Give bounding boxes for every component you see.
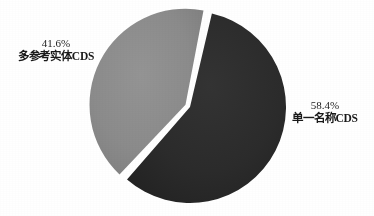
pie-label-single-name-percent: 58.4% <box>278 99 372 112</box>
pie-label-multi-reference-percent: 41.6% <box>4 37 108 50</box>
pie-label-single-name-name: 单一名称CDS <box>278 112 372 126</box>
pie-label-multi-reference-name: 多参考实体CDS <box>4 50 108 64</box>
pie-chart-figure: 41.6% 多参考实体CDS 58.4% 单一名称CDS <box>0 0 374 216</box>
pie-label-single-name: 58.4% 单一名称CDS <box>278 99 372 126</box>
pie-label-multi-reference: 41.6% 多参考实体CDS <box>4 37 108 64</box>
